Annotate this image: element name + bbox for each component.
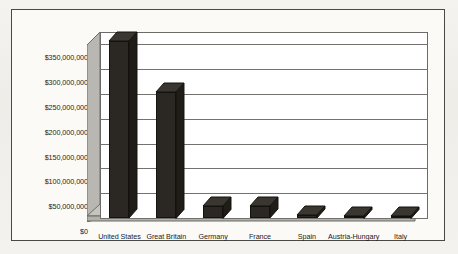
bar-series xyxy=(100,32,428,218)
y-axis-tick-label: $0 xyxy=(14,227,88,236)
x-axis-labels: United StatesGreat BritainGermanyFranceS… xyxy=(87,232,447,246)
bar xyxy=(297,215,317,218)
x-axis-tick-label: Italy xyxy=(361,232,441,241)
bar-3d-faces xyxy=(109,32,138,218)
y-axis-tick-label: $150,000,000 xyxy=(14,153,88,162)
y-axis-tick-label: $350,000,000 xyxy=(14,53,88,62)
bar-3d-faces xyxy=(391,207,420,218)
bar-3d-faces xyxy=(250,197,279,218)
gridline xyxy=(100,218,428,219)
bar-3d-faces xyxy=(203,197,232,218)
plot-side-wall xyxy=(87,32,101,218)
y-axis-tick-label: $250,000,000 xyxy=(14,103,88,112)
bar-3d-faces xyxy=(297,206,326,218)
y-axis-tick-label: $300,000,000 xyxy=(14,78,88,87)
y-axis-tick-label: $200,000,000 xyxy=(14,128,88,137)
bar-3d-faces xyxy=(156,83,185,218)
figure-frame: $0$50,000,000$100,000,000$150,000,000$20… xyxy=(11,9,445,241)
bar-3d-faces xyxy=(344,207,373,218)
bar xyxy=(250,206,270,218)
bar xyxy=(109,41,129,218)
y-axis-labels: $0$50,000,000$100,000,000$150,000,000$20… xyxy=(12,10,88,254)
bar xyxy=(156,92,176,218)
chart-page: $0$50,000,000$100,000,000$150,000,000$20… xyxy=(0,0,458,254)
bar xyxy=(344,216,364,218)
y-axis-tick-label: $50,000,000 xyxy=(14,202,88,211)
bar xyxy=(391,216,411,218)
y-axis-tick-label: $100,000,000 xyxy=(14,177,88,186)
bar xyxy=(203,206,223,218)
